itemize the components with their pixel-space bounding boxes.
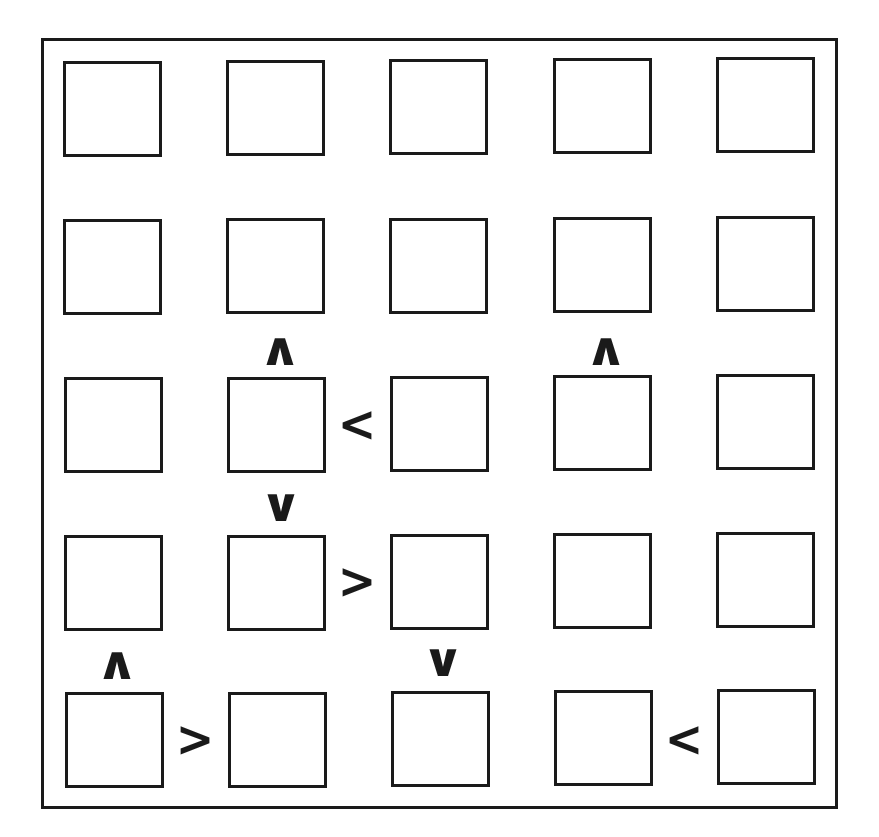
cell-r2c3[interactable] [389, 218, 488, 314]
cell-r5c5[interactable] [717, 689, 816, 785]
cell-r1c5[interactable] [716, 57, 815, 153]
cell-r2c2[interactable] [226, 218, 325, 314]
less-than-up-icon: ∧ [251, 324, 309, 374]
cell-r2c5[interactable] [716, 216, 815, 312]
less-than-icon: < [332, 396, 382, 451]
less-than-up-icon: ∧ [577, 324, 635, 374]
cell-r4c5[interactable] [716, 532, 815, 628]
cell-r5c4[interactable] [554, 690, 653, 786]
cell-r1c1[interactable] [63, 61, 162, 157]
cell-r4c2[interactable] [227, 535, 326, 631]
cell-r1c4[interactable] [553, 58, 652, 154]
cell-r5c1[interactable] [65, 692, 164, 788]
cell-r3c2[interactable] [227, 377, 326, 473]
cell-r3c3[interactable] [390, 376, 489, 472]
cell-r4c4[interactable] [553, 533, 652, 629]
cell-r4c3[interactable] [390, 534, 489, 630]
greater-than-down-icon: ∨ [252, 480, 310, 530]
less-than-up-icon: ∧ [88, 638, 146, 688]
cell-r2c4[interactable] [553, 217, 652, 313]
cell-r4c1[interactable] [64, 535, 163, 631]
cell-r3c4[interactable] [553, 375, 652, 471]
greater-than-icon: > [332, 553, 382, 608]
less-than-icon: < [659, 711, 709, 766]
cell-r1c3[interactable] [389, 59, 488, 155]
cell-r1c2[interactable] [226, 60, 325, 156]
greater-than-icon: > [170, 711, 220, 766]
cell-r3c1[interactable] [64, 377, 163, 473]
cell-r5c2[interactable] [228, 692, 327, 788]
cell-r3c5[interactable] [716, 374, 815, 470]
cell-r2c1[interactable] [63, 219, 162, 315]
greater-than-down-icon: ∨ [414, 635, 472, 685]
cell-r5c3[interactable] [391, 691, 490, 787]
